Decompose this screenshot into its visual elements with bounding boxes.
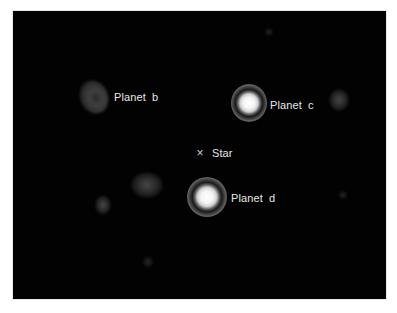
faint-speckle-top [265, 28, 273, 36]
planet-b-label: Planet b [114, 91, 158, 103]
faint-blob-right [329, 89, 349, 111]
faint-speckle-right [339, 191, 348, 199]
faint-blob-bottom [143, 257, 154, 268]
faint-blob-lower-left-small [95, 196, 111, 215]
planet-b-blob [74, 76, 114, 119]
planet-d-label: Planet d [231, 192, 275, 204]
direct-image-frame: Planet b Planet c × Star Planet d [13, 11, 386, 299]
faint-blob-lower-left-large [131, 172, 163, 198]
star-marker-icon: × [196, 147, 203, 159]
planet-c-label: Planet c [270, 99, 314, 111]
planet-d-blob [187, 177, 227, 217]
star-label: Star [212, 147, 233, 159]
planet-c-blob [231, 84, 267, 122]
